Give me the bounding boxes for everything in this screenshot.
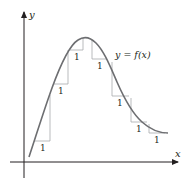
function-label: y = f(x) bbox=[114, 49, 151, 60]
step-label-1: 1 bbox=[40, 143, 46, 153]
diagram-canvas: x y 1 1 1 1 1 1 1 y = f(x) bbox=[0, 0, 185, 183]
step-label-7: 1 bbox=[154, 135, 160, 145]
x-axis-label: x bbox=[175, 148, 181, 159]
y-axis-label: y bbox=[28, 9, 35, 20]
step-label-3: 1 bbox=[74, 52, 80, 62]
step-3 bbox=[70, 38, 83, 50]
step-label-5: 1 bbox=[117, 98, 123, 108]
function-step-diagram: x y 1 1 1 1 1 1 1 y = f(x) bbox=[0, 0, 185, 183]
step-labels: 1 1 1 1 1 1 1 bbox=[40, 52, 160, 153]
step-label-4: 1 bbox=[97, 61, 103, 71]
step-label-6: 1 bbox=[136, 124, 142, 134]
step-label-2: 1 bbox=[58, 86, 64, 96]
